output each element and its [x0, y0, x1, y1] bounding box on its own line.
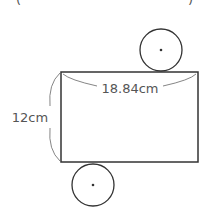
- cylinder-net-diagram: ( ) 18.84cm 12cm: [0, 0, 209, 216]
- bottom-circle-center-dot: [92, 184, 95, 187]
- height-brace-bottom: [50, 128, 60, 161]
- top-circle: [140, 29, 182, 71]
- bottom-circle: [72, 164, 114, 206]
- width-brace-right: [163, 74, 196, 86]
- top-circle-center-dot: [160, 49, 163, 52]
- partial-right-paren: ): [188, 0, 193, 7]
- partial-left-paren: (: [16, 0, 21, 7]
- width-brace-left: [63, 74, 97, 86]
- width-label: 18.84cm: [101, 81, 158, 96]
- height-brace-top: [50, 73, 60, 106]
- height-label: 12cm: [12, 110, 48, 125]
